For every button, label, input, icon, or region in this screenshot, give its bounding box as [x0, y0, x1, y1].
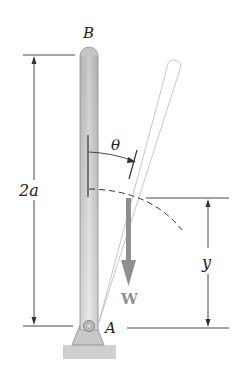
label-y: y — [201, 253, 212, 272]
ground-block — [63, 345, 116, 359]
label-b: B — [82, 24, 94, 42]
weight-arrow — [121, 198, 136, 286]
rod-stability-diagram: B A 2a θ y W — [0, 0, 243, 380]
dimension-y — [127, 198, 229, 328]
vertical-rod — [80, 47, 98, 330]
label-weight: W — [120, 290, 139, 308]
label-theta: θ — [111, 136, 120, 154]
label-a: A — [103, 319, 116, 337]
label-2a: 2a — [18, 181, 39, 200]
